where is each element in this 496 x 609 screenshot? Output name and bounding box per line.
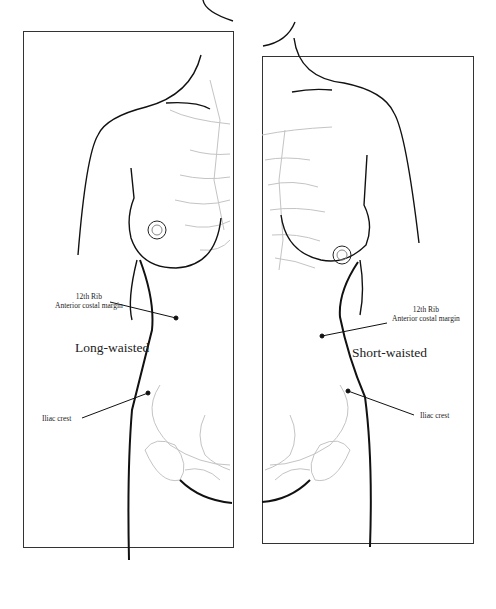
- right-iliac-label: Iliac crest: [420, 411, 449, 420]
- right-title: Short-waisted: [352, 345, 427, 361]
- left-title: Long-waisted: [75, 340, 149, 356]
- rib-label-line1: 12th Rib: [392, 305, 460, 314]
- left-rib-label: 12th Rib Anterior costal margin: [55, 292, 123, 310]
- bone-sketch: [145, 80, 350, 481]
- left-body-outline: [78, 0, 233, 560]
- rib-label-line1: 12th Rib: [55, 292, 123, 301]
- right-nipple-icon: [333, 246, 351, 264]
- left-iliac-label: Iliac crest: [42, 414, 71, 423]
- rib-label-line2: Anterior costal margin: [55, 301, 123, 310]
- left-nipple-icon: [148, 221, 166, 239]
- right-rib-label: 12th Rib Anterior costal margin: [392, 305, 460, 323]
- rib-label-line2: Anterior costal margin: [392, 314, 460, 323]
